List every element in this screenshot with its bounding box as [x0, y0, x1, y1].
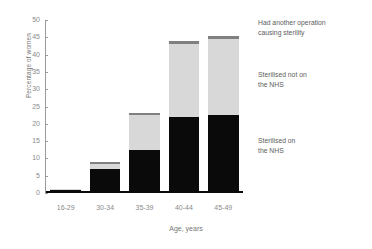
x-axis-line — [46, 191, 243, 193]
bar-segment — [129, 115, 160, 150]
x-axis-tick-label: 30-34 — [85, 204, 124, 211]
y-axis-tick-label: 45 — [32, 33, 40, 41]
bar-segment — [208, 115, 239, 193]
y-axis-tick-labels: 05101520253035404550 — [12, 0, 40, 249]
y-axis-tick-label: 50 — [32, 16, 40, 24]
y-axis-tick-label: 5 — [36, 172, 40, 180]
y-axis-tick-label: 15 — [32, 137, 40, 145]
y-axis-tick-label: 30 — [32, 85, 40, 93]
y-axis-tick-label: 25 — [32, 103, 40, 111]
bar-segment — [169, 44, 200, 117]
x-axis-title: Age, years — [0, 225, 372, 232]
y-axis-tick-label: 35 — [32, 68, 40, 76]
y-axis-tick-label: 0 — [36, 189, 40, 197]
x-axis-tick-label: 40-44 — [164, 204, 203, 211]
x-axis-tick-label: 16-29 — [46, 204, 85, 211]
legend-item-label: Sterilised on the NHS — [258, 136, 370, 155]
x-axis-tick-label: 45-49 — [204, 204, 243, 211]
bar-segment — [90, 169, 121, 193]
y-axis-tick-label: 20 — [32, 120, 40, 128]
legend-item-label: Had another operation causing sterility — [258, 18, 370, 37]
plot-area — [46, 20, 243, 193]
y-axis-tick-label: 40 — [32, 51, 40, 59]
bar-45-49 — [208, 36, 239, 193]
bar-35-39 — [129, 113, 160, 193]
stacked-bar-chart: Percentage of women 05101520253035404550… — [0, 0, 372, 249]
bar-segment — [169, 117, 200, 193]
x-axis-tick-label: 35-39 — [125, 204, 164, 211]
bar-segment — [129, 150, 160, 193]
legend-item-label: Sterilised not on the NHS — [258, 70, 370, 89]
y-axis-tick-label: 10 — [32, 154, 40, 162]
bar-40-44 — [169, 41, 200, 193]
bar-segment — [208, 39, 239, 115]
bar-30-34 — [90, 162, 121, 193]
